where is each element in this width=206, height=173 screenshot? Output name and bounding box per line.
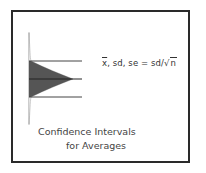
caption-line-2: for Averages bbox=[66, 140, 126, 151]
formula-label: x, sd, se = sd/√n bbox=[102, 58, 177, 68]
formula-text: , sd, se = sd/ bbox=[107, 58, 164, 68]
caption-line-1: Confidence Intervals bbox=[38, 126, 136, 137]
sqrt-argument: n bbox=[170, 57, 178, 68]
sqrt-symbol: √n bbox=[164, 58, 177, 68]
